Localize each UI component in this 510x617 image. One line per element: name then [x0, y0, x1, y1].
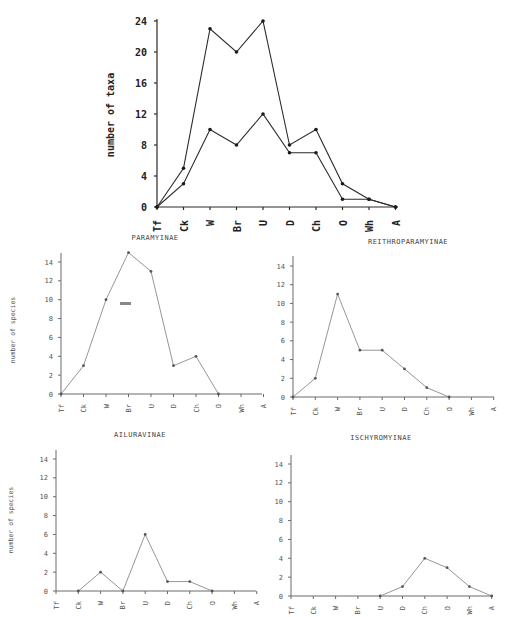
data-point [490, 595, 493, 598]
data-point [195, 355, 198, 358]
data-point [261, 112, 265, 116]
data-point [314, 151, 318, 155]
data-point [77, 590, 80, 593]
data-point [144, 533, 147, 536]
ailuravinae-chart: 02468101214TfCkWBrUDChOWhAAILURAVINAEnum… [7, 431, 261, 609]
y-tick-label: 0 [49, 391, 53, 399]
data-point [235, 143, 239, 147]
y-axis-label: number of species [9, 297, 17, 364]
x-tick-label: Wh [466, 606, 474, 614]
x-tick-label: Ck [310, 605, 318, 614]
y-tick-label: 2 [49, 372, 53, 380]
series-line [293, 294, 449, 397]
data-point [423, 557, 426, 560]
x-tick-label: Wh [468, 407, 476, 415]
data-point [336, 293, 339, 296]
y-tick-label: 6 [281, 337, 285, 345]
y-tick-label: 10 [45, 296, 53, 304]
y-tick-label: 12 [135, 109, 147, 120]
reithroparamyinae-chart: 02468101214TfCkWBrUDChOWhAREITHROPARAMYI… [277, 238, 499, 415]
chart-title: REITHROPARAMYINAE [368, 238, 448, 246]
x-tick-label: Ch [193, 404, 201, 412]
y-tick-label: 0 [281, 394, 285, 402]
x-tick-label: Ck [312, 406, 320, 415]
x-tick-label: Br [354, 606, 362, 614]
x-tick-label: O [215, 404, 223, 408]
data-point [217, 393, 220, 396]
data-point [403, 368, 406, 371]
x-tick-label: U [379, 407, 387, 411]
x-tick-label: W [332, 605, 340, 610]
data-point [341, 197, 345, 201]
y-axis-label: number of taxa [105, 73, 116, 157]
x-tick-label: Ck [179, 220, 190, 232]
data-point [208, 128, 212, 132]
data-point [166, 580, 169, 583]
y-tick-label: 14 [45, 259, 53, 267]
chart-figure: 04812162024TfCkWBrUDChOWhAnumber of taxa… [0, 0, 510, 617]
y-tick-label: 6 [49, 334, 53, 342]
x-tick-label: W [334, 406, 342, 411]
x-tick-label: A [488, 605, 496, 610]
y-tick-label: 4 [44, 550, 48, 558]
data-point [150, 270, 153, 273]
x-tick-label: O [209, 601, 217, 605]
data-point [314, 128, 318, 132]
x-tick-label: Wh [364, 220, 375, 232]
data-point [182, 166, 186, 170]
y-tick-label: 2 [281, 375, 285, 383]
x-tick-label: W [97, 600, 105, 605]
x-tick-label: Tf [53, 601, 61, 609]
total-taxa-chart: 04812162024TfCkWBrUDChOWhAnumber of taxa [105, 16, 402, 232]
y-tick-label: 8 [281, 319, 285, 327]
series-line [78, 534, 212, 591]
series-line [61, 253, 219, 394]
x-tick-label: Ch [423, 407, 431, 415]
data-point [314, 377, 317, 380]
data-point [394, 205, 398, 209]
data-point [82, 364, 85, 367]
y-tick-label: 16 [135, 78, 147, 89]
y-tick-label: 12 [40, 474, 48, 482]
series-line [380, 558, 492, 596]
x-tick-label: U [142, 601, 150, 605]
y-tick-label: 24 [135, 16, 147, 27]
data-point [448, 396, 451, 399]
y-tick-label: 8 [49, 315, 53, 323]
y-tick-label: 4 [281, 356, 285, 364]
y-tick-label: 10 [40, 493, 48, 501]
x-tick-label: Br [232, 220, 243, 232]
x-tick-label: O [338, 220, 349, 226]
y-tick-label: 14 [40, 456, 48, 464]
x-tick-label: A [260, 403, 268, 408]
y-tick-label: 2 [279, 574, 283, 582]
y-tick-label: 10 [277, 300, 285, 308]
data-point [401, 585, 404, 588]
y-tick-label: 10 [275, 498, 283, 506]
data-point [105, 298, 108, 301]
ischyromyinae-chart: 02468101214TfCkWBrUDChOWhAISCHYROMYINAE [275, 434, 497, 614]
x-tick-label: Br [356, 407, 364, 415]
y-tick-label: 2 [44, 569, 48, 577]
x-tick-label: Tf [290, 407, 298, 415]
x-tick-label: Tf [58, 404, 66, 412]
data-point [127, 251, 130, 254]
data-point [381, 349, 384, 352]
x-tick-label: D [164, 601, 172, 605]
scan-artifact-mark [120, 302, 131, 305]
x-tick-label: D [399, 606, 407, 610]
data-point [208, 27, 212, 31]
y-tick-label: 4 [279, 555, 283, 563]
y-tick-label: 0 [279, 593, 283, 601]
y-tick-label: 0 [44, 588, 48, 596]
y-tick-label: 4 [141, 171, 147, 182]
y-tick-label: 0 [141, 202, 147, 213]
chart-title: ISCHYROMYINAE [350, 434, 411, 442]
data-point [379, 595, 382, 598]
y-tick-label: 12 [45, 277, 53, 285]
y-tick-label: 14 [277, 263, 285, 271]
x-tick-label: O [444, 606, 452, 610]
y-tick-label: 12 [277, 281, 285, 289]
x-tick-label: A [253, 600, 261, 605]
x-tick-label: U [258, 220, 269, 226]
